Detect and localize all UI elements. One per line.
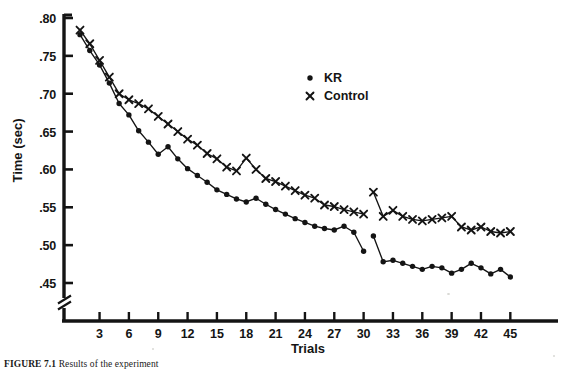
legend-label-control: Control (324, 89, 368, 103)
data-point-marker (244, 199, 249, 204)
scan-speck (553, 355, 555, 357)
data-point-marker (156, 152, 161, 157)
data-point-marker (439, 265, 444, 270)
data-point-marker (420, 267, 425, 272)
data-point-marker (341, 224, 346, 229)
data-point-marker (400, 261, 405, 266)
x-axis-title: Trials (291, 341, 325, 356)
x-tick-label: 18 (239, 327, 253, 341)
data-point-marker (146, 139, 151, 144)
data-point-marker (175, 156, 180, 161)
data-point-marker (410, 264, 415, 269)
data-point-marker (214, 187, 219, 192)
series-kr (77, 32, 513, 280)
figure-caption: FIGURE 7.1 Results of the experiment (4, 359, 159, 369)
data-point-marker (136, 128, 141, 133)
data-point-marker (351, 230, 356, 235)
x-tick-label: 3 (96, 327, 103, 341)
y-tick-label: .80 (39, 12, 56, 26)
y-tick-label: .65 (39, 126, 56, 140)
y-tick-group: .45.50.55.60.65.70.75.80 (39, 12, 73, 291)
data-point-marker (253, 196, 258, 201)
x-tick-label: 6 (125, 327, 132, 341)
data-point-marker (204, 180, 209, 185)
data-point-marker (322, 226, 327, 231)
data-point-marker (224, 192, 229, 197)
data-point-marker (488, 271, 493, 276)
x-tick-label: 27 (327, 327, 341, 341)
series-line (80, 30, 364, 214)
legend-marker-kr (307, 75, 312, 80)
legend-label-kr: KR (324, 71, 342, 85)
data-point-marker (126, 112, 131, 117)
data-point-marker (380, 259, 385, 264)
data-point-marker (478, 265, 483, 270)
legend: KRControl (307, 71, 369, 103)
data-point-marker (312, 224, 317, 229)
x-tick-label: 36 (415, 327, 429, 341)
series-control (77, 27, 514, 237)
data-point-marker (307, 75, 312, 80)
x-tick-label: 24 (298, 327, 312, 341)
data-point-marker (390, 258, 395, 263)
y-axis-title: Time (sec) (10, 118, 25, 182)
data-point-marker (429, 264, 434, 269)
y-tick-label: .45 (39, 277, 56, 291)
x-tick-label: 33 (386, 327, 400, 341)
x-tick-label: 15 (210, 327, 224, 341)
x-tick-label: 21 (269, 327, 283, 341)
y-tick-label: .75 (39, 50, 56, 64)
data-point-marker (371, 233, 376, 238)
data-point-marker (449, 270, 454, 275)
x-tick-label: 9 (155, 327, 162, 341)
y-tick-label: .50 (39, 239, 56, 253)
x-tick-group: 369121518212427303336394245 (96, 312, 517, 341)
series-line (373, 236, 510, 277)
data-point-marker (459, 267, 464, 272)
data-point-marker (332, 227, 337, 232)
data-point-marker (469, 261, 474, 266)
y-tick-label: .60 (39, 163, 56, 177)
learning-curve-chart: .45.50.55.60.65.70.75.803691215182124273… (0, 0, 569, 373)
data-point-marker (273, 207, 278, 212)
data-point-marker (508, 274, 513, 279)
x-tick-label: 39 (445, 327, 459, 341)
legend-marker-control (307, 93, 314, 100)
y-tick-label: .70 (39, 88, 56, 102)
data-point-marker (361, 249, 366, 254)
data-point-marker (292, 216, 297, 221)
data-point-marker (195, 173, 200, 178)
data-point-marker (185, 166, 190, 171)
data-point-marker (165, 144, 170, 149)
data-point-marker (302, 220, 307, 225)
x-tick-label: 42 (474, 327, 488, 341)
data-point-marker (498, 267, 503, 272)
x-tick-label: 30 (357, 327, 371, 341)
data-point-marker (87, 48, 92, 53)
data-point-marker (263, 202, 268, 207)
scan-speck (447, 293, 450, 295)
caption-label: FIGURE 7.1 (4, 359, 56, 369)
series-line (80, 35, 364, 252)
data-point-marker (283, 211, 288, 216)
data-point-marker (116, 101, 121, 106)
data-point-marker (234, 196, 239, 201)
scan-speck (152, 348, 154, 350)
y-tick-label: .55 (39, 201, 56, 215)
x-tick-label: 12 (181, 327, 195, 341)
x-tick-label: 45 (503, 327, 517, 341)
figure-panel: .45.50.55.60.65.70.75.803691215182124273… (0, 0, 569, 373)
caption-text: Results of the experiment (56, 359, 158, 369)
